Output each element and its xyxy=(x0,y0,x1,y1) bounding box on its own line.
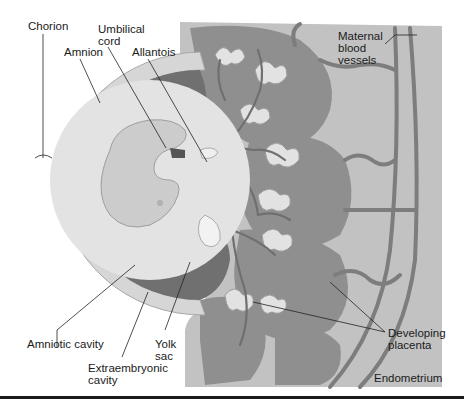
bottom-rule xyxy=(0,396,464,399)
label-amnion: Amnion xyxy=(64,46,103,58)
label-allantois: Allantois xyxy=(132,46,175,58)
label-endometrium: Endometrium xyxy=(374,372,442,384)
label-chorion: Chorion xyxy=(28,20,68,32)
label-maternal-blood-vessels: Maternal blood vessels xyxy=(338,30,383,66)
label-extraembryonic-cavity: Extraembryonic cavity xyxy=(88,362,168,386)
embryo-eye xyxy=(157,200,163,206)
label-yolk-sac: Yolk sac xyxy=(155,338,176,362)
label-developing-placenta: Developing placenta xyxy=(388,327,446,351)
label-amniotic-cavity: Amniotic cavity xyxy=(27,338,104,350)
label-umbilical-cord: Umbilical cord xyxy=(98,23,145,47)
